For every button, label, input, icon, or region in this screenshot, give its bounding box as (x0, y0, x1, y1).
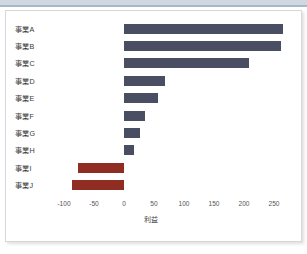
bar-事業E (124, 93, 158, 103)
category-label: 事業F (15, 111, 34, 121)
bar-row: 事業B (6, 37, 301, 54)
category-label: 事業G (15, 128, 35, 138)
bar-事業J (72, 180, 124, 190)
category-label: 事業D (15, 76, 35, 86)
chart-card: 事業A事業B事業C事業D事業E事業F事業G事業H事業I事業J 利益 -100-5… (5, 10, 302, 242)
plot-area: 事業A事業B事業C事業D事業E事業F事業G事業H事業I事業J 利益 -100-5… (6, 11, 301, 241)
bar-row: 事業F (6, 107, 301, 124)
bar-事業G (124, 128, 140, 138)
category-label: 事業C (15, 58, 35, 68)
category-label: 事業A (15, 24, 34, 34)
bar-row: 事業E (6, 90, 301, 107)
bar-事業H (124, 145, 134, 155)
bar-row: 事業G (6, 124, 301, 141)
x-tick-label: 0 (122, 200, 126, 207)
bar-事業I (78, 163, 124, 173)
x-tick-label: -50 (89, 200, 99, 207)
category-label: 事業H (15, 145, 35, 155)
bar-row: 事業I (6, 159, 301, 176)
x-tick-label: 150 (208, 200, 219, 207)
screenshot-root: 事業A事業B事業C事業D事業E事業F事業G事業H事業I事業J 利益 -100-5… (0, 0, 307, 254)
x-tick-label: -100 (57, 200, 70, 207)
x-tick-label: 100 (178, 200, 189, 207)
category-label: 事業B (15, 41, 34, 51)
category-label: 事業I (15, 163, 32, 173)
bar-row: 事業C (6, 55, 301, 72)
window-top-band-divider (0, 5, 307, 7)
bar-事業B (124, 41, 281, 51)
x-tick-label: 200 (238, 200, 249, 207)
bar-row: 事業D (6, 72, 301, 89)
bar-rows: 事業A事業B事業C事業D事業E事業F事業G事業H事業I事業J (6, 20, 301, 194)
bar-row: 事業J (6, 177, 301, 194)
bar-事業D (124, 76, 165, 86)
x-tick-label: 50 (150, 200, 157, 207)
window-top-band (0, 0, 307, 7)
bar-row: 事業A (6, 20, 301, 37)
category-label: 事業J (15, 180, 33, 190)
x-axis-title: 利益 (144, 214, 158, 224)
x-tick-label: 250 (268, 200, 279, 207)
bar-row: 事業H (6, 142, 301, 159)
bar-事業C (124, 58, 249, 68)
x-axis: 利益 -100-50050100150200250 (6, 194, 301, 242)
category-label: 事業E (15, 93, 34, 103)
bar-事業F (124, 111, 145, 121)
bar-事業A (124, 24, 283, 34)
